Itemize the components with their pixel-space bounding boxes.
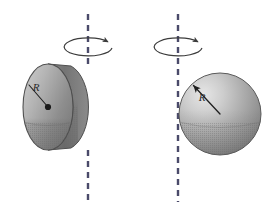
disk-radius-label: R bbox=[32, 81, 40, 93]
disk-center-dot bbox=[45, 104, 51, 110]
figure-canvas: R R bbox=[0, 0, 265, 220]
right-panel-rotating-sphere: R bbox=[154, 14, 262, 202]
left-panel-rotating-disk: R bbox=[22, 14, 112, 202]
sphere-radius-label: R bbox=[198, 91, 206, 103]
sphere-body bbox=[178, 73, 262, 158]
disk-body bbox=[22, 64, 88, 156]
physics-figure: R R bbox=[0, 0, 265, 220]
